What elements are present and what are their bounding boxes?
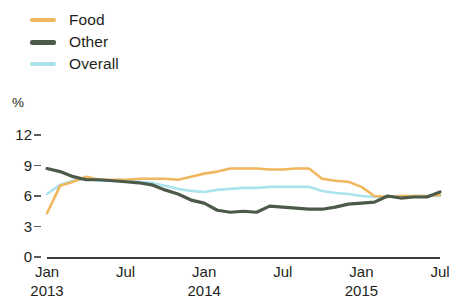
x-axis-line [47, 257, 440, 259]
y-axis: 129630 [0, 0, 44, 304]
x-axis-tick-month: Jul [116, 262, 135, 281]
x-axis: Jan2013JulJan2014JulJan2015Jul [0, 262, 444, 304]
y-axis-tick-label-9: 9 [24, 157, 32, 174]
y-axis-tick-label-12: 12 [15, 126, 32, 143]
x-axis-tick-1: Jul [116, 262, 135, 281]
series-line-other [47, 169, 440, 213]
legend-label-overall: Overall [69, 56, 119, 72]
x-axis-tick-2: Jan2014 [188, 262, 221, 300]
x-axis-tick-4: Jan2015 [345, 262, 378, 300]
x-axis-tick-3: Jul [273, 262, 292, 281]
plot-area [47, 120, 440, 258]
x-axis-tick-month: Jul [430, 262, 449, 281]
legend-label-other: Other [69, 34, 108, 50]
x-axis-tick-year: 2013 [30, 281, 63, 300]
x-axis-tick-month: Jul [273, 262, 292, 281]
x-axis-tick-0: Jan2013 [30, 262, 63, 300]
x-axis-tick-year: 2014 [188, 281, 221, 300]
y-axis-tick-label-3: 3 [24, 218, 32, 235]
x-axis-tick-5: Jul [430, 262, 449, 281]
y-axis-tick-label-6: 6 [24, 187, 32, 204]
y-axis-tick-mark-0 [34, 256, 41, 258]
y-axis-tick-mark-3 [34, 226, 41, 228]
x-axis-tick-month: Jan [345, 262, 378, 281]
y-axis-tick-mark-12 [34, 134, 41, 136]
series-line-food [47, 169, 440, 214]
x-axis-tick-year: 2015 [345, 281, 378, 300]
y-axis-tick-mark-9 [34, 165, 41, 167]
y-axis-tick-mark-6 [34, 195, 41, 197]
x-axis-tick-month: Jan [188, 262, 221, 281]
legend-label-food: Food [69, 12, 105, 28]
series-lines [47, 120, 440, 258]
x-axis-tick-month: Jan [30, 262, 63, 281]
